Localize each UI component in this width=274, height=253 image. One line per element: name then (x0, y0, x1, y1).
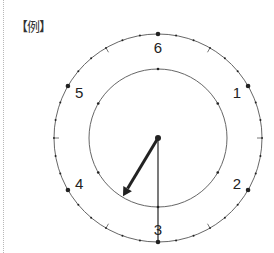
inner-dot (97, 102, 100, 105)
minor-dot (193, 39, 195, 41)
minor-dot (259, 155, 261, 157)
half-hour-tick (208, 224, 211, 228)
dial-number-5: 5 (75, 84, 83, 101)
minor-dot (224, 217, 226, 219)
dial-number-4: 4 (75, 175, 83, 192)
dial-number-1: 1 (233, 84, 241, 101)
minor-dot (77, 70, 79, 72)
half-hour-tick (106, 224, 109, 228)
minor-dot (237, 204, 239, 206)
minor-dot (175, 239, 177, 241)
minor-dot (259, 119, 261, 121)
minor-dot (55, 119, 57, 121)
minor-dot (237, 70, 239, 72)
dial-number-6: 6 (154, 39, 162, 56)
minor-dot (224, 57, 226, 59)
minor-dot (121, 235, 123, 237)
half-hour-tick (208, 48, 211, 52)
inner-dot (157, 68, 160, 71)
minor-dot (193, 235, 195, 237)
minor-dot (139, 35, 141, 37)
minor-dot (59, 173, 61, 175)
inner-dot (216, 171, 219, 174)
minor-dot (255, 101, 257, 103)
major-dot (66, 84, 71, 89)
inner-dot (216, 102, 219, 105)
major-dot (246, 84, 251, 89)
minor-dot (139, 239, 141, 241)
minor-dot (55, 155, 57, 157)
dial-number-2: 2 (233, 175, 241, 192)
major-dot (156, 32, 161, 37)
minor-dot (77, 204, 79, 206)
half-hour-tick (106, 48, 109, 52)
minor-dot (59, 101, 61, 103)
hour-hand (128, 138, 158, 189)
major-dot (66, 188, 71, 193)
minor-dot (90, 217, 92, 219)
minor-dot (90, 57, 92, 59)
major-dot (246, 188, 251, 193)
minor-dot (121, 39, 123, 41)
center-pivot (155, 135, 161, 141)
minor-dot (175, 35, 177, 37)
minor-dot (255, 173, 257, 175)
inner-dot (97, 171, 100, 174)
clock-diagram: 612345 (0, 0, 274, 253)
